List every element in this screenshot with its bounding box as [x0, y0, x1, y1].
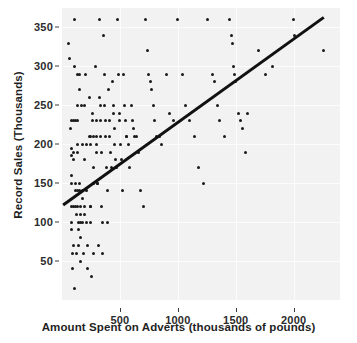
y-axis-title: Record Sales (Thousands)	[12, 35, 24, 255]
y-tick-mark	[55, 144, 59, 145]
y-tick-mark	[55, 27, 59, 28]
y-tick-mark	[55, 66, 59, 67]
y-tick-label: 200	[34, 138, 53, 150]
y-tick-mark	[55, 261, 59, 262]
y-tick-label: 250	[34, 99, 53, 111]
y-tick-mark	[55, 105, 59, 106]
x-tick-mark	[120, 308, 121, 312]
y-tick-label: 150	[34, 177, 53, 189]
y-tick-label: 50	[40, 255, 53, 267]
y-tick-label: 350	[34, 21, 53, 33]
y-tick-label: 100	[34, 216, 53, 228]
x-tick-mark	[294, 308, 295, 312]
x-tick-mark	[236, 308, 237, 312]
x-tick-mark	[178, 308, 179, 312]
scatter-chart-figure: 50100150200250300350 500100015002000 Amo…	[0, 0, 357, 343]
x-axis-title: Amount Spent on Adverts (thousands of po…	[0, 321, 357, 333]
y-tick-mark	[55, 183, 59, 184]
axis-layer: 50100150200250300350 500100015002000	[62, 8, 340, 300]
y-tick-label: 300	[34, 60, 53, 72]
y-tick-mark	[55, 222, 59, 223]
